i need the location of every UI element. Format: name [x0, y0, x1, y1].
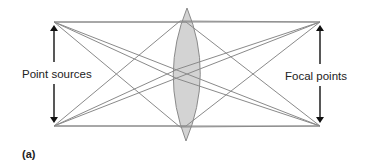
focal-points-label: Focal points — [285, 69, 347, 83]
point-sources-label: Point sources — [22, 67, 92, 81]
lens-diagram — [0, 0, 365, 168]
panel-label: (a) — [22, 148, 35, 160]
